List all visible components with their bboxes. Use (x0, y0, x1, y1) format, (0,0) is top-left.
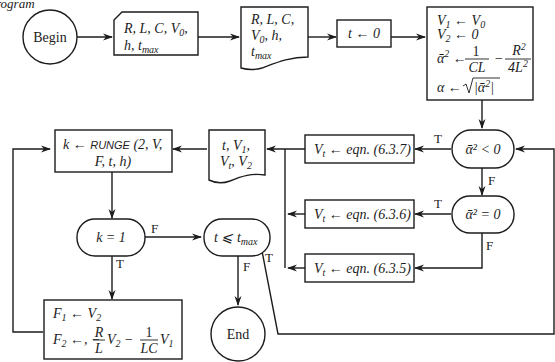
svg-text:Vt ← eqn. (6.3.6): Vt ← eqn. (6.3.6) (314, 207, 411, 224)
svg-text:−: − (495, 51, 503, 66)
node-decision-lt: ᾱ² < 0 (452, 130, 514, 168)
svg-text:F1 ← V2: F1 ← V2 (52, 306, 101, 323)
node-runge: k ← RUNGE (2, V, F, t, h) (55, 130, 172, 172)
svg-text:1: 1 (146, 325, 153, 340)
svg-text:1: 1 (473, 44, 480, 59)
svg-text:Vt ← eqn. (6.3.5): Vt ← eqn. (6.3.5) (314, 261, 411, 278)
svg-text:ᾱ2 ←: ᾱ2 ← (437, 48, 467, 66)
svg-text:α ←: α ← (437, 80, 462, 95)
node-eqn-636: Vt ← eqn. (6.3.6) (305, 200, 414, 228)
partial-heading: rogram (0, 0, 35, 11)
svg-text:CL: CL (468, 60, 485, 75)
svg-text:L: L (94, 341, 103, 356)
svg-text:LC: LC (139, 341, 158, 356)
node-eqn-635: Vt ← eqn. (6.3.5) (305, 254, 414, 282)
label-k-false: F (151, 221, 158, 236)
svg-text:R, L, C, V0,: R, L, C, V0, (123, 21, 188, 38)
node-end: End (211, 307, 265, 361)
label-t-true: T (265, 250, 273, 265)
svg-text:Vt ← eqn. (6.3.7): Vt ← eqn. (6.3.7) (314, 142, 411, 159)
svg-text:V0, h,: V0, h, (251, 28, 282, 45)
svg-text:F, t, h): F, t, h) (94, 154, 132, 170)
node-init-t: t ← 0 (337, 20, 391, 47)
node-decision-eq: ᾱ² = 0 (452, 196, 514, 233)
node-decision-k: k = 1 (77, 219, 145, 256)
label-lt-true: T (434, 131, 442, 146)
svg-text:V2 ← 0: V2 ← 0 (437, 27, 479, 44)
svg-text:Begin: Begin (33, 30, 66, 45)
node-eqn-637: Vt ← eqn. (6.3.7) (305, 135, 414, 163)
edge-eq-false (415, 233, 482, 268)
svg-text:t, V1,: t, V1, (222, 138, 250, 155)
label-k-true: T (116, 256, 124, 271)
svg-text:k ← RUNGE (2, V,: k ← RUNGE (2, V, (63, 137, 162, 153)
edge-t-true (262, 149, 554, 334)
node-input-card: R, L, C, V0, h, tmax (114, 12, 198, 55)
svg-text:R, L, C,: R, L, C, (250, 12, 294, 27)
svg-text:t ← 0: t ← 0 (348, 26, 380, 41)
flowchart: rogram (0, 0, 555, 362)
label-lt-false: F (488, 173, 495, 188)
svg-text:R: R (94, 325, 104, 340)
node-init-block: V1 ← V0 V2 ← 0 ᾱ2 ← 1 CL − R2 4L2 α ← |ᾱ… (427, 7, 533, 100)
svg-text:k = 1: k = 1 (96, 230, 126, 245)
svg-text:V2 −: V2 − (107, 332, 134, 349)
svg-text:|ᾱ2|: |ᾱ2| (474, 78, 494, 95)
label-eq-true: T (434, 196, 442, 211)
node-begin: Begin (23, 10, 77, 64)
svg-text:End: End (227, 327, 250, 342)
node-decision-t: t ⩽ tmax (204, 219, 270, 256)
node-print-state: t, V1, Vt, V2 (209, 130, 265, 183)
svg-text:ᾱ² < 0: ᾱ² < 0 (466, 142, 501, 157)
svg-text:ᾱ² = 0: ᾱ² = 0 (466, 207, 501, 222)
node-derivs: F1 ← V2 F2 ←, − R L V2 − 1 LC V1 (44, 300, 182, 359)
label-eq-false: F (486, 238, 493, 253)
svg-text:F2 ←, −: F2 ←, − (52, 332, 101, 349)
label-t-false: F (243, 259, 250, 274)
node-print-params: R, L, C, V0, h, tmax (241, 7, 308, 70)
